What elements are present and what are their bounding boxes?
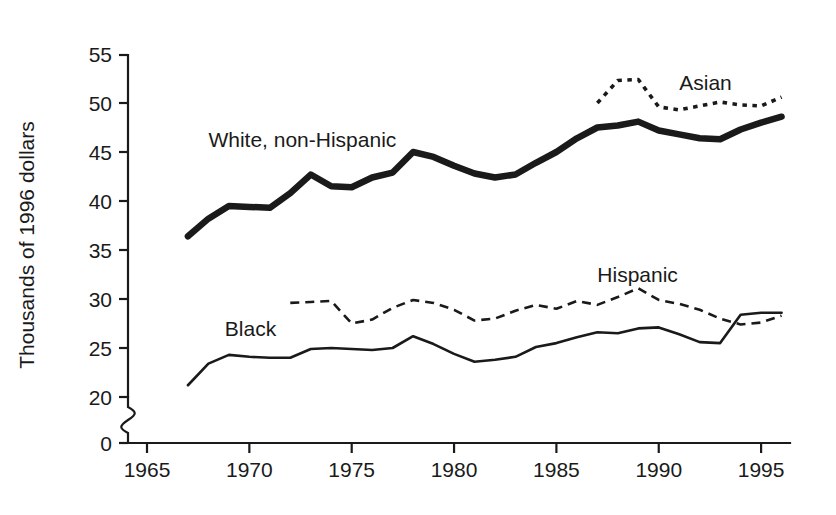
series-label-white-non-hispanic: White, non-Hispanic bbox=[208, 128, 396, 151]
y-tick-label-35: 35 bbox=[89, 239, 112, 262]
line-chart: 02025303540455055 1965197019751980198519… bbox=[0, 0, 836, 515]
chart-container: 02025303540455055 1965197019751980198519… bbox=[0, 0, 836, 515]
x-tick-label-1970: 1970 bbox=[226, 458, 273, 481]
x-tick-label-1990: 1990 bbox=[635, 458, 682, 481]
y-tick-label-50: 50 bbox=[89, 92, 112, 115]
x-tick-label-1985: 1985 bbox=[533, 458, 580, 481]
y-tick-label-25: 25 bbox=[89, 337, 112, 360]
x-tick-label-1995: 1995 bbox=[738, 458, 785, 481]
x-tick-label-1965: 1965 bbox=[124, 458, 171, 481]
y-tick-label-20: 20 bbox=[89, 386, 112, 409]
x-tick-label-1980: 1980 bbox=[431, 458, 478, 481]
y-tick-label-45: 45 bbox=[89, 141, 112, 164]
series-label-hispanic: Hispanic bbox=[597, 263, 678, 286]
series-label-black: Black bbox=[225, 317, 277, 340]
y-tick-label-0: 0 bbox=[100, 432, 112, 455]
y-tick-label-55: 55 bbox=[89, 43, 112, 66]
y-tick-label-30: 30 bbox=[89, 288, 112, 311]
y-tick-label-40: 40 bbox=[89, 190, 112, 213]
x-tick-label-1975: 1975 bbox=[328, 458, 375, 481]
y-axis: 02025303540455055 bbox=[89, 43, 135, 455]
series-label-asian: Asian bbox=[679, 71, 732, 94]
y-axis-title: Thousands of 1996 dollars bbox=[15, 121, 38, 369]
